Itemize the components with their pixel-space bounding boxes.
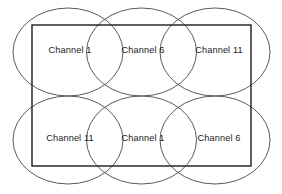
cell-label-r1c3: Channel 11 — [195, 45, 242, 55]
cell-label-r2c3: Channel 6 — [198, 133, 241, 143]
channel-reuse-diagram: Channel 1 Channel 6 Channel 11 Channel 1… — [0, 0, 282, 194]
cell-label-r2c1: Channel 11 — [46, 133, 93, 143]
cell-label-r2c2: Channel 1 — [122, 133, 165, 143]
cell-label-r1c1: Channel 1 — [49, 45, 92, 55]
cell-label-r1c2: Channel 6 — [122, 45, 165, 55]
channel-plan-svg: Channel 1 Channel 6 Channel 11 Channel 1… — [0, 0, 282, 194]
